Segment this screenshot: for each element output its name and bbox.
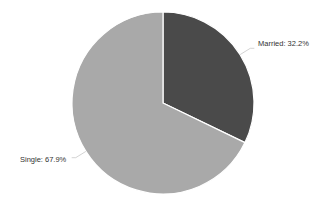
leader-line-married [240, 48, 254, 54]
data-label-married: Married: 32.2% [258, 40, 309, 48]
data-label-single: Single: 67.9% [20, 156, 66, 164]
leader-line-single [72, 151, 86, 157]
pie-chart: Married: 32.2% Single: 67.9% [0, 0, 326, 208]
pie-chart-canvas [0, 0, 326, 208]
